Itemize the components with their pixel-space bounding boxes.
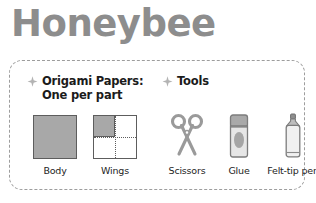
shaded-quadrant [94,116,115,137]
material-label-body: Body [28,165,82,176]
tool-label-glue: Glue [216,165,262,176]
body-figure [28,113,82,159]
tool-label-scissors: Scissors [160,165,214,176]
glue-figure [216,113,262,159]
tools-heading-label: Tools [177,74,209,88]
folded-paper-square-icon [93,115,137,159]
material-item-body: Body [28,113,82,176]
material-label-wings: Wings [88,165,142,176]
scissors-figure [160,113,214,159]
tool-item-glue: Glue [216,113,262,176]
scissors-icon [169,113,205,159]
fold-line-vertical [115,116,116,158]
section-heading-papers: Origami Papers: One per part [27,74,143,102]
tool-item-scissors: Scissors [160,113,214,176]
page-title: Honeybee [11,0,216,50]
section-heading-tools: Tools [162,74,209,88]
papers-heading-line2: One per part [42,88,143,102]
felt-tip-pen-icon [282,113,304,159]
wings-figure [88,113,142,159]
material-item-wings: Wings [88,113,142,176]
pen-figure [262,113,316,159]
glue-stick-icon [226,113,252,159]
tool-item-felt-tip-pen: Felt-tip pen [262,113,316,176]
tool-label-felt-tip-pen: Felt-tip pen [262,165,316,176]
star-icon [162,76,173,87]
papers-heading-line1: Origami Papers: [42,74,143,88]
solid-paper-square-icon [33,115,77,159]
materials-panel: Origami Papers: One per part Tools Body … [9,60,305,190]
star-icon [27,76,38,87]
